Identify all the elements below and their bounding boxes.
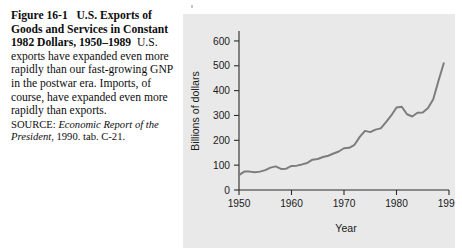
y-axis-title: Billions of dollars xyxy=(189,71,201,151)
figure-caption: Figure 16-1 U.S. Exports of Goods and Se… xyxy=(11,9,179,144)
y-tick-label: 300 xyxy=(213,110,230,121)
x-tick-group: 19501960197019801990 xyxy=(228,190,455,209)
x-tick-label: 1960 xyxy=(280,198,303,209)
figure-source: SOURCE: Economic Report of the President… xyxy=(11,119,179,144)
x-tick-label: 1980 xyxy=(385,198,408,209)
chart-panel: 0100200300400500600 19501960197019801990… xyxy=(183,14,455,248)
line-chart: 0100200300400500600 19501960197019801990… xyxy=(183,14,455,248)
y-tick-group: 0100200300400500600 xyxy=(213,36,239,196)
x-tick-label: 1950 xyxy=(228,198,251,209)
x-tick-label: 1990 xyxy=(438,198,455,209)
scan-speck xyxy=(191,5,193,8)
figure-root: Figure 16-1 U.S. Exports of Goods and Se… xyxy=(0,0,462,252)
source-rest: , 1990. tab. C-21. xyxy=(51,131,125,142)
figure-number: Figure 16-1 xyxy=(11,9,68,22)
source-label: SOURCE: xyxy=(11,119,58,130)
x-axis-title: Year xyxy=(335,222,357,234)
y-tick-label: 400 xyxy=(213,85,230,96)
y-tick-label: 0 xyxy=(224,185,230,196)
y-tick-label: 100 xyxy=(213,160,230,171)
y-tick-label: 500 xyxy=(213,60,230,71)
x-tick-label: 1970 xyxy=(333,198,356,209)
y-tick-label: 600 xyxy=(213,36,230,47)
exports-series-line xyxy=(239,63,444,175)
y-tick-label: 200 xyxy=(213,135,230,146)
